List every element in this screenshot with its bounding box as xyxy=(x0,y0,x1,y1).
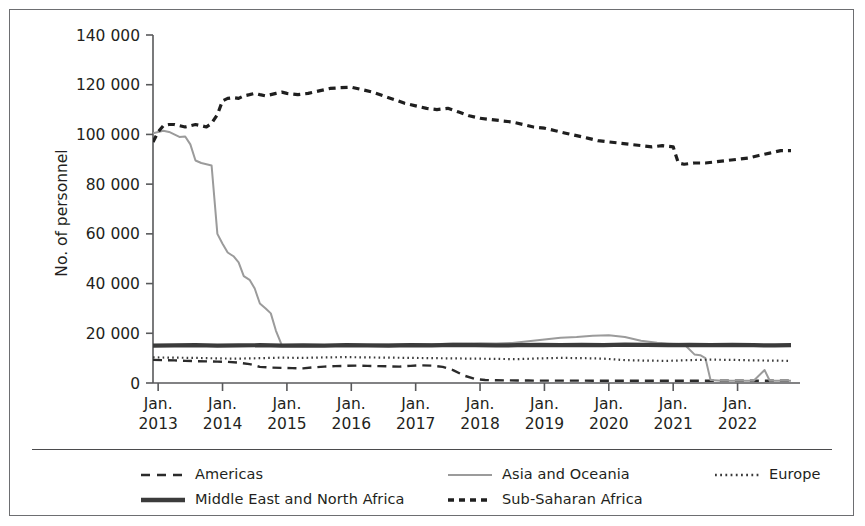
y-tick-label: 120 000 xyxy=(76,76,140,94)
line-chart: 020 00040 00060 00080 000100 000120 0001… xyxy=(10,10,853,440)
x-tick-label: Jan. xyxy=(143,395,173,413)
americas-key xyxy=(140,469,186,481)
series-group xyxy=(153,87,791,381)
x-tick-label: Jan. xyxy=(722,395,752,413)
legend-item-sub-saharan-africa[interactable]: Sub-Saharan Africa xyxy=(447,487,643,512)
legend-divider xyxy=(32,449,832,450)
x-tick-label: 2019 xyxy=(525,415,564,433)
x-tick-label: 2021 xyxy=(653,415,692,433)
asia-oceania-key xyxy=(447,469,493,481)
figure-frame: 020 00040 00060 00080 000100 000120 0001… xyxy=(9,9,854,516)
x-tick-label: 2015 xyxy=(267,415,306,433)
x-tick-label: Jan. xyxy=(336,395,366,413)
legend-label: Americas xyxy=(195,467,263,482)
x-tick-label: 2017 xyxy=(396,415,435,433)
x-tick-label: Jan. xyxy=(207,395,237,413)
x-tick-label: 2013 xyxy=(138,415,177,433)
y-tick-label: 100 000 xyxy=(76,126,140,144)
legend-label: Middle East and North Africa xyxy=(195,492,405,507)
x-tick-label: Jan. xyxy=(529,395,559,413)
x-tick-label: 2020 xyxy=(589,415,628,433)
x-tick-label: 2016 xyxy=(332,415,371,433)
x-tick-label: 2014 xyxy=(203,415,242,433)
legend-label: Asia and Oceania xyxy=(502,467,630,482)
y-tick-label: 20 000 xyxy=(86,325,140,343)
y-tick-label: 60 000 xyxy=(86,225,140,243)
x-tick-label: Jan. xyxy=(271,395,301,413)
x-tick-label: Jan. xyxy=(658,395,688,413)
y-tick-label: 80 000 xyxy=(86,176,140,194)
x-tick-label: Jan. xyxy=(593,395,623,413)
legend-item-europe[interactable]: Europe xyxy=(714,462,821,487)
series-line-americas xyxy=(153,360,791,381)
sub-saharan-africa-key xyxy=(447,494,493,506)
legend-item-asia-and-oceania[interactable]: Asia and Oceania xyxy=(447,462,643,487)
europe-key xyxy=(714,469,760,481)
legend-label: Europe xyxy=(769,467,821,482)
series-line-europe xyxy=(153,357,791,361)
x-tick-label: 2018 xyxy=(460,415,499,433)
legend-label: Sub-Saharan Africa xyxy=(502,492,643,507)
chart-plot-area: 020 00040 00060 00080 000100 000120 0001… xyxy=(10,10,853,440)
y-axis-title: No. of personnel xyxy=(53,149,71,276)
chart-legend: AmericasMiddle East and North AfricaAsia… xyxy=(10,462,853,514)
legend-column-1: AmericasMiddle East and North Africa xyxy=(140,462,405,512)
legend-column-3: Europe xyxy=(714,462,821,487)
series-line-middle-east-and-north-africa xyxy=(153,345,791,346)
y-tick-label: 40 000 xyxy=(86,275,140,293)
mena-key xyxy=(140,494,186,506)
y-tick-label: 140 000 xyxy=(76,27,140,45)
x-tick-label: 2022 xyxy=(718,415,757,433)
y-tick-label: 0 xyxy=(130,375,140,393)
legend-item-middle-east-and-north-africa[interactable]: Middle East and North Africa xyxy=(140,487,405,512)
legend-column-2: Asia and OceaniaSub-Saharan Africa xyxy=(447,462,643,512)
legend-item-americas[interactable]: Americas xyxy=(140,462,405,487)
x-tick-label: Jan. xyxy=(400,395,430,413)
x-tick-label: Jan. xyxy=(465,395,495,413)
series-line-sub-saharan-africa xyxy=(153,87,791,164)
